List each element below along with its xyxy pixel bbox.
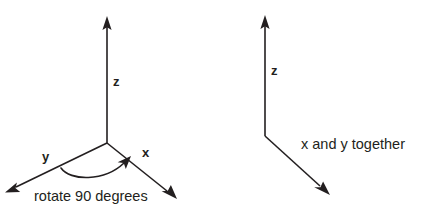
diagram-canvas: z y x rotate 90 degrees z x and y togeth… xyxy=(0,0,427,212)
right-z-axis-label: z xyxy=(271,64,278,77)
left-x-axis-line xyxy=(107,143,167,191)
rotation-annotation-label: rotate 90 degrees xyxy=(34,189,148,204)
rotation-arc-line xyxy=(61,163,124,178)
left-y-axis-line xyxy=(16,143,107,187)
left-z-axis-label: z xyxy=(113,75,120,88)
right-z-axis-arrow xyxy=(260,15,269,136)
rotation-arc-arrow xyxy=(61,156,131,178)
left-y-axis-label: y xyxy=(42,150,49,163)
left-z-axis-arrow xyxy=(102,16,111,143)
left-y-arrowhead-icon xyxy=(5,182,20,192)
right-axis-group xyxy=(260,15,330,195)
left-x-axis-label: x xyxy=(142,146,149,159)
left-axis-group xyxy=(5,16,177,199)
left-x-arrowhead-icon xyxy=(162,185,177,199)
axes-vector-graphics xyxy=(0,0,427,212)
right-xy-axis-label: x and y together xyxy=(301,137,405,152)
left-y-axis-arrow xyxy=(5,143,107,193)
